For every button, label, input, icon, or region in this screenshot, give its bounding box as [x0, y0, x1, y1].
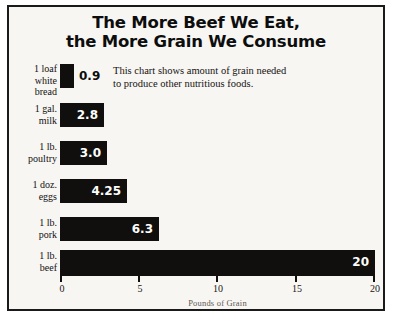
bar-value-label: 4.25 [60, 179, 121, 203]
category-label-line: bread [9, 86, 57, 98]
x-axis-tick [295, 276, 297, 282]
category-label: 1 doz. eggs [9, 179, 57, 202]
bar-value-label: 2.8 [60, 103, 98, 127]
category-label-line: eggs [9, 191, 57, 203]
category-label-line: 1 gal. [9, 103, 57, 115]
plot-area: 1 loaf white bread 0.9 1 gal. milk 2.8 1… [9, 7, 383, 309]
bar-value-label: 20 [60, 250, 369, 274]
category-label-line: 1 lb. [9, 217, 57, 229]
chart-frame: The More Beef We Eat, the More Grain We … [7, 5, 385, 311]
category-label-line: 1 loaf [9, 63, 57, 75]
category-label-line: 1 lb. [9, 250, 57, 262]
bar-value-label: 0.9 [79, 64, 100, 88]
x-axis-tick-label: 5 [125, 283, 155, 294]
bar-value-label: 6.3 [60, 217, 153, 241]
x-axis-tick-label: 10 [203, 283, 233, 294]
category-label-line: white [9, 75, 57, 87]
x-axis-tick-label: 0 [47, 283, 77, 294]
x-axis-title: Pounds of Grain [60, 298, 375, 308]
x-axis-tick-label: 20 [360, 283, 390, 294]
category-label-line: 1 doz. [9, 179, 57, 191]
bar-value-label: 3.0 [60, 141, 101, 165]
category-label: 1 loaf white bread [9, 63, 57, 98]
x-axis-tick [138, 276, 140, 282]
x-axis-tick [216, 276, 218, 282]
category-label: 1 lb. poultry [9, 141, 57, 164]
category-label-line: pork [9, 229, 57, 241]
category-label: 1 gal. milk [9, 103, 57, 126]
category-label-line: milk [9, 115, 57, 127]
category-label: 1 lb. beef [9, 250, 57, 273]
category-label-line: 1 lb. [9, 141, 57, 153]
category-label-line: poultry [9, 153, 57, 165]
category-label-line: beef [9, 262, 57, 274]
x-axis-tick [373, 276, 375, 282]
bar [60, 64, 74, 88]
x-axis-tick [60, 276, 62, 282]
category-label: 1 lb. pork [9, 217, 57, 240]
x-axis-tick-label: 15 [282, 283, 312, 294]
